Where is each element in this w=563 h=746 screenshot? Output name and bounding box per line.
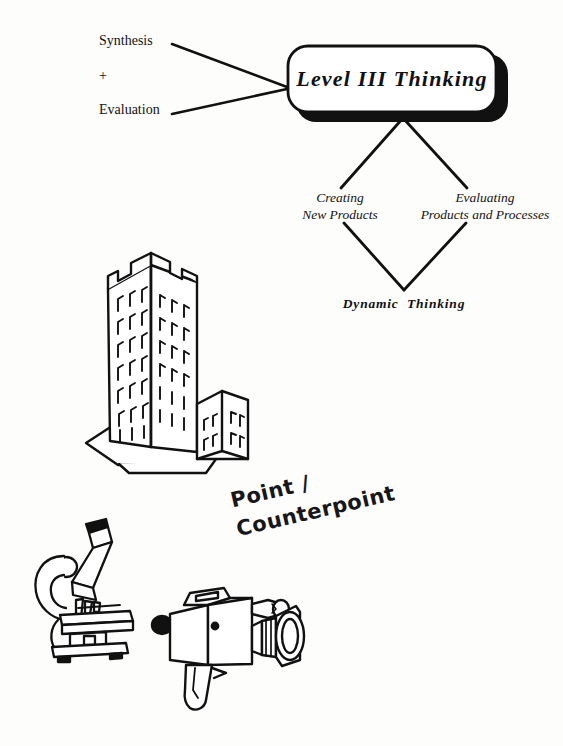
page-canvas: Synthesis + Evaluation Level III Thinkin… [0,0,563,746]
main-box-title: Level III Thinking [288,46,496,112]
lower-branch-lines [344,223,466,290]
branch-label-products-and-processes: Products and Processes [406,207,563,223]
outcome-label-dynamic-thinking: Dynamic Thinking [324,296,484,312]
input-connector-lines [172,44,287,114]
microscope-icon [35,519,133,662]
video-camera-icon [152,588,304,710]
branch-label-evaluating: Evaluating [406,190,563,206]
upper-branch-lines [341,118,467,188]
input-label-plus: + [99,68,107,85]
input-label-evaluation: Evaluation [99,102,160,119]
branch-label-creating: Creating [276,190,404,206]
branch-label-new-products: New Products [276,207,404,223]
input-label-synthesis: Synthesis [99,33,153,50]
skyscraper-building-icon [86,253,248,473]
